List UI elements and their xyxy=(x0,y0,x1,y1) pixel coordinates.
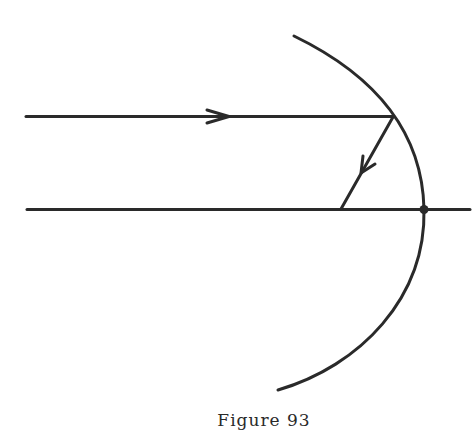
reflected-ray xyxy=(341,117,393,209)
figure-caption: Figure 93 xyxy=(0,410,472,430)
mirror-ray-diagram xyxy=(0,0,472,438)
concave-mirror xyxy=(278,36,424,390)
vertex-point xyxy=(420,205,429,214)
